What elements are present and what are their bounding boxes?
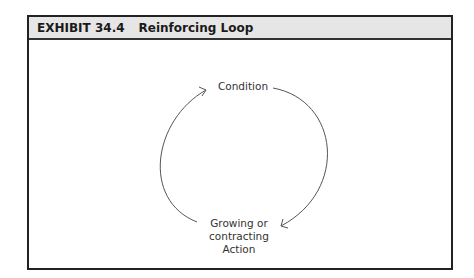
node-action-line-3: Action — [199, 243, 279, 256]
exhibit-title: Reinforcing Loop — [139, 21, 254, 35]
node-action-line-1: Growing or — [199, 217, 279, 230]
exhibit-frame: EXHIBIT 34.4 Reinforcing Loop Condition … — [27, 15, 453, 270]
left-arc-arrow — [160, 90, 206, 222]
node-condition: Condition — [213, 80, 273, 93]
node-action-line-2: contracting — [199, 230, 279, 243]
exhibit-number: EXHIBIT 34.4 — [37, 21, 125, 35]
right-arc-arrow — [273, 88, 327, 226]
node-action: Growing or contracting Action — [199, 217, 279, 256]
exhibit-header: EXHIBIT 34.4 Reinforcing Loop — [29, 17, 451, 40]
loop-diagram: Condition Growing or contracting Action — [29, 40, 451, 268]
